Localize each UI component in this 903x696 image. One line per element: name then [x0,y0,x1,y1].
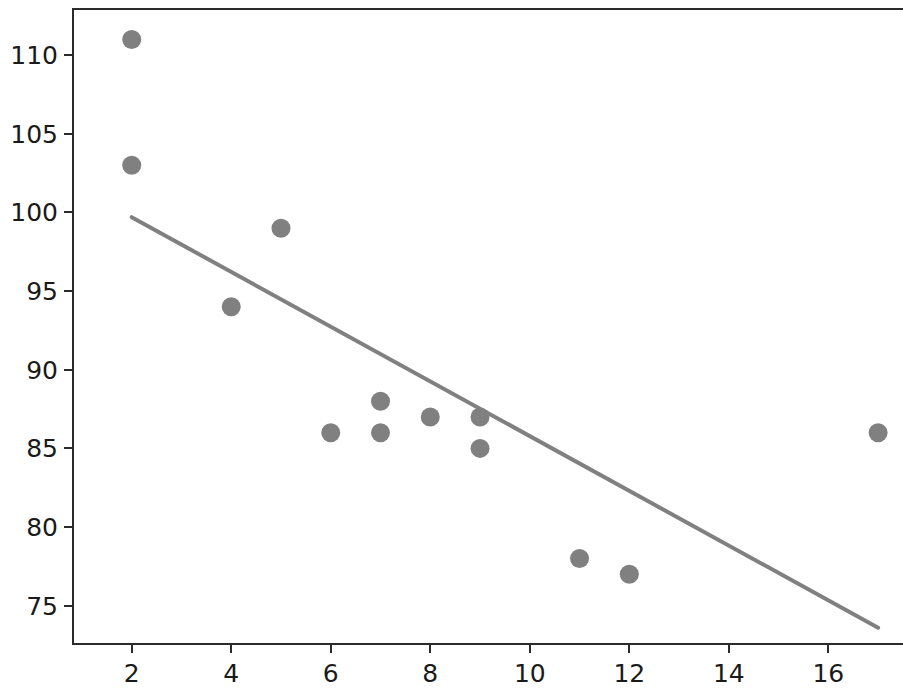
x-tick-label: 6 [323,659,339,688]
scatter-point [570,549,589,568]
scatter-point [222,297,241,316]
x-tick-label: 10 [514,659,546,688]
y-tick-label: 90 [26,355,58,384]
y-tick-mark [64,290,72,292]
x-tick-mark [628,645,630,653]
x-tick-mark [827,645,829,653]
y-tick-mark [64,605,72,607]
x-tick-label: 16 [812,659,844,688]
scatter-point [271,219,290,238]
y-tick-mark [64,447,72,449]
scatter-point [620,565,639,584]
x-tick-mark [429,645,431,653]
x-tick-mark [330,645,332,653]
x-tick-label: 4 [223,659,239,688]
scatter-plot-figure: 7580859095100105110 246810121416 [0,0,903,696]
x-tick-label: 2 [124,659,140,688]
scatter-point [421,407,440,426]
scatter-point [122,156,141,175]
x-tick-label: 8 [422,659,438,688]
scatter-point [321,423,340,442]
trend-line [132,217,878,628]
x-tick-mark [230,645,232,653]
y-tick-mark [64,369,72,371]
data-layer [72,8,903,645]
scatter-point [471,439,490,458]
scatter-point [122,30,141,49]
scatter-point [371,392,390,411]
scatter-point [471,407,490,426]
y-tick-mark [64,526,72,528]
y-tick-label: 95 [26,277,58,306]
y-tick-label: 85 [26,434,58,463]
scatter-point [371,423,390,442]
plot-area [72,8,903,645]
x-tick-label: 14 [713,659,745,688]
x-tick-mark [529,645,531,653]
x-tick-mark [728,645,730,653]
scatter-point [869,423,888,442]
y-tick-label: 105 [10,119,58,148]
y-tick-mark [64,54,72,56]
x-tick-label: 12 [613,659,645,688]
y-tick-label: 110 [10,41,58,70]
x-tick-mark [131,645,133,653]
y-tick-label: 75 [26,591,58,620]
y-tick-label: 80 [26,513,58,542]
y-tick-mark [64,211,72,213]
y-tick-label: 100 [10,198,58,227]
y-tick-mark [64,133,72,135]
